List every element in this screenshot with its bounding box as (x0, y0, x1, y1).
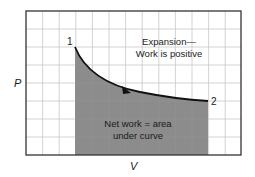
pv-diagram: P V 1 2 Expansion— Work is positive Net … (0, 0, 255, 177)
point-1-label: 1 (67, 36, 73, 47)
y-axis-label: P (14, 77, 22, 89)
x-axis-label: V (130, 160, 139, 172)
point-2-label: 2 (211, 96, 217, 107)
area-annotation-line1: Net work = area (104, 118, 172, 129)
area-annotation-line2: under curve (113, 130, 163, 141)
process-annotation-line2: Work is positive (136, 48, 202, 59)
process-annotation-line1: Expansion— (142, 36, 196, 47)
